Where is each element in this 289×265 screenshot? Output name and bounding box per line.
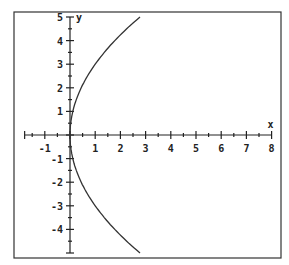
y-tick-label: -3 bbox=[51, 201, 63, 212]
x-tick-label: 8 bbox=[269, 143, 275, 154]
x-tick-label: 2 bbox=[117, 143, 123, 154]
x-tick-label: 6 bbox=[218, 143, 224, 154]
y-tick-label: -1 bbox=[51, 154, 63, 165]
y-tick-label: 5 bbox=[57, 12, 63, 23]
x-tick-label: 5 bbox=[193, 143, 199, 154]
x-axis-label: x bbox=[268, 119, 274, 130]
x-tick-label: 7 bbox=[243, 143, 249, 154]
y-tick-label: -2 bbox=[51, 177, 63, 188]
y-tick-label: 1 bbox=[57, 106, 63, 117]
x-tick-label: 3 bbox=[143, 143, 149, 154]
x-tick-label: -1 bbox=[39, 143, 51, 154]
chart: -11234567854321-1-2-3-4xy bbox=[0, 0, 289, 265]
y-tick-label: 3 bbox=[57, 59, 63, 70]
y-axis-label: y bbox=[76, 12, 82, 23]
x-tick-label: 4 bbox=[168, 143, 174, 154]
y-tick-label: -4 bbox=[51, 224, 63, 235]
y-tick-label: 4 bbox=[57, 36, 63, 47]
y-tick-label: 2 bbox=[57, 83, 63, 94]
x-tick-label: 1 bbox=[92, 143, 98, 154]
